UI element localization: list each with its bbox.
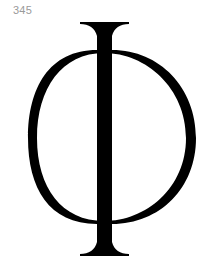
phi-top-serif	[80, 22, 129, 36]
phi-bottom-serif	[80, 242, 129, 256]
phi-stem	[97, 24, 112, 254]
phi-glyph-icon	[0, 0, 209, 261]
page: 345	[0, 0, 209, 261]
